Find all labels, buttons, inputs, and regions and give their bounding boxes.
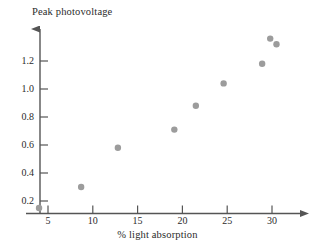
y-axis-ticks xyxy=(40,61,48,201)
data-point xyxy=(193,103,199,109)
data-point xyxy=(171,126,177,132)
x-axis-tick-label: 5 xyxy=(35,215,61,226)
x-axis-tick-label: 30 xyxy=(259,215,285,226)
scatter-plot-figure: Peak photovoltage % light absorption 0.2… xyxy=(0,0,315,249)
y-axis-title: Peak photovoltage xyxy=(32,6,112,17)
y-axis-tick-label: 0.6 xyxy=(8,139,34,150)
x-axis-tick-label: 15 xyxy=(125,215,151,226)
data-point xyxy=(115,145,121,151)
x-axis-tick-label: 20 xyxy=(169,215,195,226)
axes xyxy=(26,29,300,214)
plot-canvas xyxy=(0,0,315,249)
y-axis-tick-label: 0.2 xyxy=(8,195,34,206)
data-point xyxy=(267,35,273,41)
data-point xyxy=(220,80,226,86)
y-axis-tick-label: 1.0 xyxy=(8,83,34,94)
x-axis-title: % light absorption xyxy=(0,229,315,240)
data-point xyxy=(259,61,265,67)
x-axis-ticks xyxy=(48,206,272,214)
data-points xyxy=(36,35,280,211)
y-axis-tick-label: 1.2 xyxy=(8,55,34,66)
data-point xyxy=(78,184,84,190)
y-axis-tick-label: 0.8 xyxy=(8,111,34,122)
data-point xyxy=(36,205,42,211)
x-axis-tick-label: 10 xyxy=(80,215,106,226)
y-axis-tick-label: 0.4 xyxy=(8,167,34,178)
x-axis-tick-label: 25 xyxy=(214,215,240,226)
data-point xyxy=(273,41,279,47)
